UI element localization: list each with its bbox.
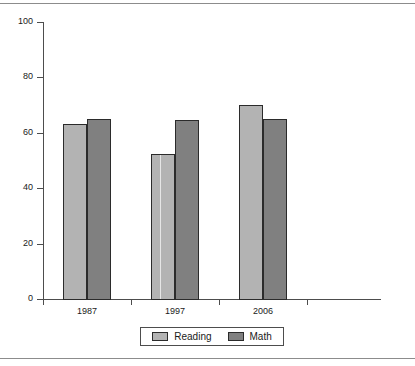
legend-label: Math: [250, 332, 272, 342]
math-swatch: [228, 332, 244, 341]
legend-entry-math[interactable]: Math: [228, 332, 272, 342]
bar-reading-1997: [151, 154, 175, 300]
y-axis-tick: [37, 188, 43, 189]
y-axis-tick: [37, 22, 43, 23]
x-axis-group-label: 1997: [140, 306, 210, 317]
y-axis-tick-label: 100: [3, 17, 33, 26]
y-axis-tick-label: 0: [3, 294, 33, 303]
bar-reading-2006: [239, 105, 263, 300]
x-axis-group-label: 2006: [228, 306, 298, 317]
y-axis-tick: [37, 133, 43, 134]
chart-legend: ReadingMath: [140, 327, 284, 346]
x-axis-tick: [307, 300, 308, 305]
y-axis-tick-label: 80: [3, 72, 33, 81]
x-axis-group-label: 1987: [52, 306, 122, 317]
bar-math-1987: [87, 119, 111, 300]
bar-chart: 020406080100 198719972006: [0, 0, 415, 366]
legend-label: Reading: [174, 332, 211, 342]
legend-entry-reading[interactable]: Reading: [152, 332, 211, 342]
y-axis-tick-label: 20: [3, 239, 33, 248]
x-axis-tick: [131, 300, 132, 305]
x-axis-tick: [43, 300, 44, 305]
y-axis-line: [43, 22, 44, 300]
bar-reading-1987: [63, 124, 87, 300]
y-axis-tick: [37, 77, 43, 78]
bar-seam-line: [160, 155, 161, 299]
y-axis-tick-label: 40: [3, 183, 33, 192]
x-axis-tick: [219, 300, 220, 305]
reading-swatch: [152, 332, 168, 341]
bar-math-1997: [175, 120, 199, 300]
y-axis-tick: [37, 244, 43, 245]
page-canvas: 020406080100 198719972006 ReadingMath: [0, 0, 415, 366]
bar-math-2006: [263, 119, 287, 300]
y-axis-tick-label: 60: [3, 128, 33, 137]
